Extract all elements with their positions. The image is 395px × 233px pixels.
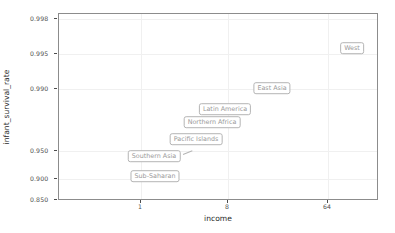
gridline-y-0950	[59, 151, 377, 152]
gridline-x-64	[328, 14, 329, 199]
gridline-y-0990	[59, 89, 377, 90]
xtick-label-8: 8	[225, 203, 229, 210]
scatter-plot-figure: 0.998 0.995 0.990 0.950 0.900 0.850 1 8 …	[0, 0, 395, 233]
gridline-y-0900	[59, 179, 377, 180]
ytick-mark-0990	[54, 88, 57, 89]
point-label-latin-america: Latin America	[199, 103, 251, 115]
point-label-southern-asia: Southern Asia	[128, 150, 181, 162]
xtick-label-1: 1	[138, 203, 142, 210]
ytick-mark-0950	[54, 150, 57, 151]
ytick-mark-0998	[54, 18, 57, 19]
point-label-sub-saharan: Sub-Saharan	[130, 170, 179, 182]
point-label-northern-africa: Northern Africa	[184, 116, 241, 128]
ytick-mark-0995	[54, 53, 57, 54]
gridline-y-0995	[59, 54, 377, 55]
point-label-pacific-islands: Pacific Islands	[170, 133, 223, 145]
gridline-y-0998	[59, 19, 377, 20]
ytick-mark-0900	[54, 178, 57, 179]
x-axis-title: income	[204, 214, 232, 223]
ytick-mark-0850	[54, 199, 57, 200]
y-axis-title: infant_survival_rate	[2, 70, 11, 145]
point-label-west: West	[340, 42, 364, 54]
xtick-label-64: 64	[323, 203, 331, 210]
point-label-east-asia: East Asia	[253, 82, 290, 94]
